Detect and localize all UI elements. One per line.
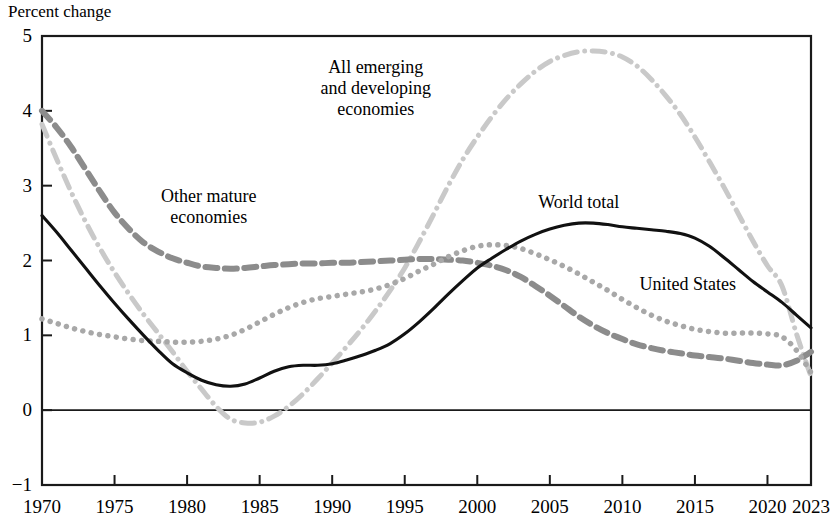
- series-line-world-total: [42, 216, 811, 387]
- x-axis-tick-label: 2023: [776, 497, 833, 516]
- series-label-united-states: United States: [548, 274, 828, 295]
- y-axis-tick-label: 3: [2, 176, 32, 195]
- x-axis-tick-label: 2005: [515, 497, 585, 516]
- series-label-other-mature-economies: Other matureeconomies: [69, 186, 349, 228]
- y-axis-tick-label: −1: [2, 475, 32, 494]
- y-axis-title: Percent change: [8, 2, 111, 22]
- annotation-line: United States: [548, 274, 828, 295]
- series-label-world-total: World total: [439, 192, 719, 213]
- x-axis-tick-label: 2015: [660, 497, 730, 516]
- y-axis-tick-label: 4: [2, 101, 32, 120]
- series-label-all-emerging-and-developing-economies: All emergingand developingeconomies: [236, 57, 516, 120]
- x-axis-tick-label: 1975: [80, 497, 150, 516]
- y-axis-tick-label: 5: [2, 26, 32, 45]
- y-axis-tick-label: 1: [2, 325, 32, 344]
- annotation-line: Other mature: [69, 186, 349, 207]
- chart-figure: Percent change 543210−119701975198019851…: [0, 0, 833, 525]
- x-axis-tick-label: 1970: [7, 497, 77, 516]
- x-axis-tick-label: 1980: [152, 497, 222, 516]
- annotation-line: All emerging: [236, 57, 516, 78]
- annotation-line: economies: [236, 99, 516, 120]
- x-axis-tick-label: 1990: [297, 497, 367, 516]
- x-axis-tick-label: 1985: [225, 497, 295, 516]
- annotation-line: and developing: [236, 78, 516, 99]
- y-axis-tick-label: 2: [2, 251, 32, 270]
- x-axis-tick-label: 2000: [442, 497, 512, 516]
- x-axis-tick-label: 2010: [587, 497, 657, 516]
- annotation-line: economies: [69, 207, 349, 228]
- y-axis-tick-label: 0: [2, 400, 32, 419]
- annotation-line: World total: [439, 192, 719, 213]
- x-axis-tick-label: 1995: [370, 497, 440, 516]
